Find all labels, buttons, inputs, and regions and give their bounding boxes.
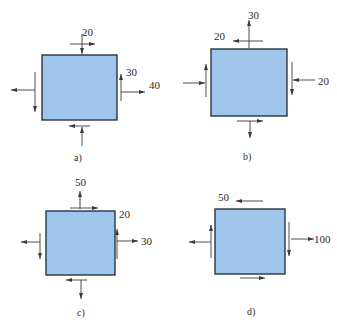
a-bottom-normal-arrowhead-icon — [80, 127, 84, 133]
a-left-shear-arrowhead-icon — [33, 106, 37, 112]
a-top-shear-arrow — [70, 42, 95, 46]
a-top-normal-arrowhead-icon — [80, 48, 84, 54]
d-bottom-shear-arrow — [240, 276, 265, 280]
stress-element-b — [211, 49, 287, 116]
a-bottom-normal-arrow — [80, 127, 84, 146]
c-left-normal-arrow — [21, 240, 40, 244]
label-b-shear-top: 20 — [214, 30, 226, 42]
d-right-normal-arrow — [291, 237, 314, 241]
c-top-shear-arrowhead-icon — [92, 206, 98, 210]
a-bottom-shear-arrowhead-icon — [69, 124, 75, 128]
c-top-normal-arrow — [78, 191, 82, 209]
c-left-shear-arrowhead-icon — [38, 253, 42, 259]
stress-element-a — [42, 55, 117, 120]
d-top-shear-arrowhead-icon — [236, 199, 242, 203]
c-bottom-normal-arrowhead-icon — [79, 293, 83, 299]
panel-d: 50 100 d) — [189, 191, 331, 318]
b-right-shear-arrow — [290, 62, 294, 95]
label-a-top: 20 — [82, 26, 94, 38]
a-left-normal-arrow — [11, 88, 35, 92]
a-left-normal-arrowhead-icon — [11, 88, 17, 92]
label-b-normal-top: 30 — [248, 9, 260, 21]
d-left-shear-arrow — [209, 225, 213, 258]
d-left-normal-arrow — [189, 240, 211, 244]
d-right-shear-arrowhead-icon — [287, 250, 291, 256]
panel-c: 50 20 30 c) — [21, 176, 153, 319]
b-right-normal-arrowhead-icon — [293, 78, 299, 82]
b-left-shear-arrow — [204, 64, 208, 97]
label-c-shear-top: 20 — [119, 208, 131, 220]
stress-element-c — [46, 211, 115, 275]
stress-element-figure: 20 30 40 a) 30 20 20 b) 50 20 30 c) 50 1… — [0, 0, 337, 328]
a-bottom-shear-arrow — [69, 124, 90, 128]
panel-b: 30 20 20 b) — [183, 9, 330, 163]
b-bottom-normal-arrow — [248, 121, 252, 138]
b-bottom-shear-arrowhead-icon — [257, 119, 263, 123]
label-a-shear-right: 30 — [126, 66, 138, 78]
c-bottom-shear-arrowhead-icon — [66, 278, 72, 282]
caption-a: a) — [74, 152, 82, 164]
a-right-normal-arrowhead-icon — [139, 90, 145, 94]
a-left-shear-arrow — [33, 72, 37, 112]
label-d-shear-top: 50 — [218, 191, 230, 203]
b-left-normal-arrow — [183, 81, 205, 85]
caption-d: d) — [247, 306, 255, 318]
a-right-shear-arrowhead-icon — [119, 74, 123, 80]
label-d-normal-right: 100 — [314, 233, 331, 245]
label-c-normal-top: 50 — [75, 176, 87, 188]
b-top-normal-arrow — [247, 20, 251, 48]
b-left-shear-arrowhead-icon — [204, 64, 208, 70]
b-right-normal-arrow — [293, 78, 315, 82]
a-top-shear-arrowhead-icon — [89, 42, 95, 46]
c-right-normal-arrow — [117, 239, 138, 243]
c-top-shear-arrow — [70, 206, 98, 210]
stress-element-d — [215, 209, 285, 274]
label-c-normal-right: 30 — [141, 235, 153, 247]
c-left-shear-arrow — [38, 233, 42, 259]
c-right-normal-arrowhead-icon — [132, 239, 138, 243]
c-bottom-shear-arrow — [66, 278, 87, 282]
a-right-shear-arrow — [119, 74, 123, 101]
panel-a: 20 30 40 a) — [11, 26, 161, 164]
d-bottom-shear-arrowhead-icon — [259, 276, 265, 280]
c-left-normal-arrowhead-icon — [21, 240, 27, 244]
b-left-normal-arrowhead-icon — [199, 81, 205, 85]
caption-b: b) — [243, 151, 251, 163]
b-top-shear-arrowhead-icon — [233, 39, 239, 43]
d-left-shear-arrowhead-icon — [209, 225, 213, 231]
b-right-shear-arrowhead-icon — [290, 89, 294, 95]
label-a-normal-right: 40 — [149, 79, 161, 91]
b-bottom-normal-arrowhead-icon — [248, 132, 252, 138]
label-b-normal-right: 20 — [318, 75, 330, 87]
c-top-normal-arrowhead-icon — [78, 191, 82, 197]
a-right-normal-arrow — [121, 90, 145, 94]
b-top-shear-arrow — [233, 39, 263, 43]
d-left-normal-arrowhead-icon — [189, 240, 195, 244]
c-bottom-normal-arrow — [79, 280, 83, 299]
d-right-shear-arrow — [287, 222, 291, 256]
d-top-shear-arrow — [236, 199, 263, 203]
caption-c: c) — [77, 307, 85, 319]
